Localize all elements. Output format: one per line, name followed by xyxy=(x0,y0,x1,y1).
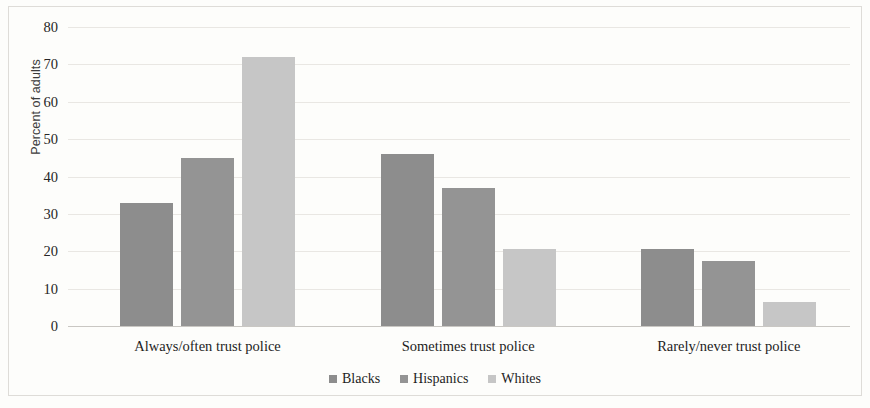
legend-swatch-icon xyxy=(400,375,408,383)
y-axis-tick-label: 10 xyxy=(12,280,58,297)
bar xyxy=(503,249,556,326)
axis-baseline xyxy=(68,326,850,327)
legend-label: Whites xyxy=(501,371,541,387)
x-axis-group-label: Sometimes trust police xyxy=(328,338,608,355)
chart-legend: BlacksHispanicsWhites xyxy=(0,371,870,387)
y-axis-tick-label: 80 xyxy=(12,19,58,36)
legend-label: Blacks xyxy=(342,371,380,387)
bar-chart-figure: Percent of adults 01020304050607080 Alwa… xyxy=(0,0,870,408)
legend-item: Whites xyxy=(488,371,541,387)
y-axis-tick-label: 20 xyxy=(12,243,58,260)
legend-item: Blacks xyxy=(329,371,380,387)
bar xyxy=(702,261,755,326)
gridline xyxy=(68,102,850,103)
bar xyxy=(381,154,434,326)
y-axis-tick-label: 60 xyxy=(12,93,58,110)
bar xyxy=(120,203,173,326)
gridline xyxy=(68,27,850,28)
gridline xyxy=(68,139,850,140)
y-axis-tick-label: 0 xyxy=(12,318,58,335)
plot-area xyxy=(68,27,850,326)
legend-swatch-icon xyxy=(329,375,337,383)
bar xyxy=(442,188,495,326)
gridline xyxy=(68,64,850,65)
bar xyxy=(763,302,816,326)
y-axis-tick-label: 30 xyxy=(12,205,58,222)
bar xyxy=(641,249,694,326)
x-axis-group-label: Always/often trust police xyxy=(68,338,348,355)
y-axis-tick-label: 70 xyxy=(12,56,58,73)
y-axis-tick-label: 40 xyxy=(12,168,58,185)
legend-swatch-icon xyxy=(488,375,496,383)
x-axis-group-label: Rarely/never trust police xyxy=(589,338,869,355)
bar xyxy=(181,158,234,326)
bar xyxy=(242,57,295,326)
legend-item: Hispanics xyxy=(400,371,468,387)
y-axis-tick-label: 50 xyxy=(12,131,58,148)
legend-label: Hispanics xyxy=(413,371,468,387)
y-axis-tick-labels: 01020304050607080 xyxy=(12,27,58,326)
